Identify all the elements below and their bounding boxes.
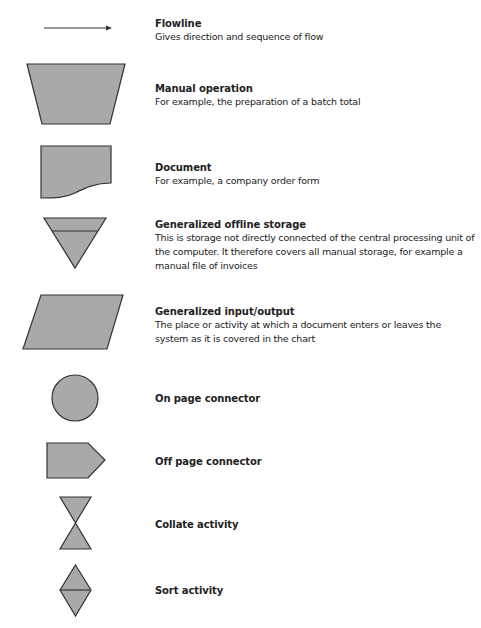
symbol-title: Document — [155, 161, 475, 174]
offline-storage-triangle-icon — [44, 218, 106, 268]
symbol-title: Manual operation — [155, 82, 475, 95]
sort-diamond-icon — [60, 565, 91, 616]
on-page-connector-circle-icon — [52, 375, 98, 421]
symbol-entry-collate: Collate activity — [155, 518, 475, 531]
symbol-title: Flowline — [155, 17, 475, 30]
symbol-title: Off page connector — [155, 455, 475, 468]
off-page-connector-pentagon-icon — [47, 443, 105, 478]
symbol-description: This is storage not directly connected o… — [155, 231, 475, 273]
symbol-entry-document: Document For example, a company order fo… — [155, 161, 475, 188]
collate-hourglass-icon — [60, 497, 91, 549]
symbol-title: Sort activity — [155, 584, 475, 597]
symbol-entry-input-output: Generalized input/output The place or ac… — [155, 305, 475, 346]
symbol-description: For example, the preparation of a batch … — [155, 95, 475, 109]
symbol-entry-sort: Sort activity — [155, 584, 475, 597]
symbol-entry-offline-storage: Generalized offline storage This is stor… — [155, 218, 475, 273]
document-icon — [41, 146, 111, 198]
symbol-title: On page connector — [155, 392, 475, 405]
symbol-description: Gives direction and sequence of flow — [155, 30, 475, 44]
flowline-arrow-icon — [44, 26, 112, 31]
symbol-entry-on-page-connector: On page connector — [155, 392, 475, 405]
symbol-entry-off-page-connector: Off page connector — [155, 455, 475, 468]
symbol-entry-manual-operation: Manual operation For example, the prepar… — [155, 82, 475, 109]
manual-operation-trapezoid-icon — [27, 64, 125, 124]
input-output-parallelogram-icon — [23, 295, 123, 349]
symbol-description: The place or activity at which a documen… — [155, 318, 475, 346]
symbol-title: Generalized input/output — [155, 305, 475, 318]
symbol-description: For example, a company order form — [155, 174, 475, 188]
symbol-entry-flowline: Flowline Gives direction and sequence of… — [155, 17, 475, 44]
symbol-title: Collate activity — [155, 518, 475, 531]
symbol-title: Generalized offline storage — [155, 218, 475, 231]
